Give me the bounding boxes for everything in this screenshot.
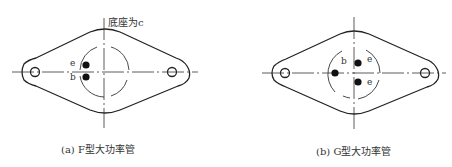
annotation-base-is-c: 底座为c xyxy=(108,14,144,29)
caption-b: (b) G型大功率管 xyxy=(316,143,391,158)
pin-b-dot xyxy=(331,69,338,76)
figure-b-package xyxy=(272,31,439,114)
pin-label-e2: e xyxy=(367,77,372,87)
caption-a: (a) F型大功率管 xyxy=(61,141,135,156)
pin-label-b: b xyxy=(70,72,76,82)
pin-label-e1: e xyxy=(367,54,372,64)
pin-e1-dot xyxy=(354,59,361,66)
pin-b-dot xyxy=(82,73,89,80)
figure-a-package xyxy=(22,29,190,113)
pin-e-dot xyxy=(82,61,89,68)
pin-e2-dot xyxy=(354,78,361,85)
pin-label-e: e xyxy=(70,58,75,68)
pin-label-b: b xyxy=(341,56,347,66)
